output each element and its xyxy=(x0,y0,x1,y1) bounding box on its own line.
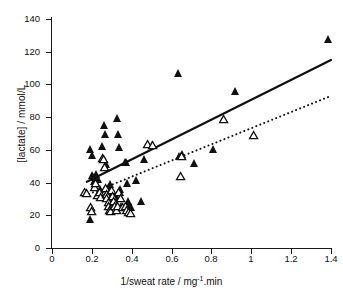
y-tick xyxy=(46,84,51,85)
data-point-open xyxy=(99,155,108,163)
data-point-filled xyxy=(123,179,131,187)
y-tick-label: 0 xyxy=(6,243,40,253)
data-point-filled xyxy=(114,130,122,138)
x-tick-label: 1 xyxy=(236,254,266,264)
data-point-open xyxy=(148,141,157,149)
y-tick-label: 140 xyxy=(6,14,40,24)
y-tick-label: 20 xyxy=(6,210,40,220)
y-tick xyxy=(46,183,51,184)
data-point-filled xyxy=(140,155,148,163)
data-point-filled xyxy=(98,142,106,150)
x-tick-label: 0 xyxy=(37,254,67,264)
x-axis-title-post: .min xyxy=(204,276,223,287)
x-axis-line xyxy=(51,248,332,249)
data-point-filled xyxy=(86,215,94,223)
data-point-filled xyxy=(231,87,239,95)
data-point-open xyxy=(219,115,228,123)
y-tick xyxy=(46,150,51,151)
y-tick xyxy=(46,117,51,118)
data-point-open xyxy=(177,152,186,160)
data-point-filled xyxy=(324,35,332,43)
x-tick-label: 0.8 xyxy=(196,254,226,264)
data-point-filled xyxy=(100,121,108,129)
data-point-filled xyxy=(113,114,121,122)
chart-figure: 020406080100120140 00.20.40.60.811.21.4 … xyxy=(0,0,343,298)
data-point-open xyxy=(100,163,109,171)
y-axis-title: [lactate] / mmol/L xyxy=(16,49,27,199)
data-point-filled xyxy=(122,158,130,166)
y-tick xyxy=(46,19,51,20)
data-point-open xyxy=(176,172,185,180)
data-point-open xyxy=(126,209,135,217)
data-point-filled xyxy=(209,145,217,153)
data-point-open xyxy=(249,131,258,139)
data-point-filled xyxy=(115,143,123,151)
y-tick xyxy=(46,248,51,249)
x-tick-label: 0.4 xyxy=(117,254,147,264)
x-tick-label: 1.4 xyxy=(316,254,343,264)
data-point-filled xyxy=(132,176,140,184)
x-tick-label: 0.6 xyxy=(157,254,187,264)
x-tick-label: 0.2 xyxy=(77,254,107,264)
data-point-open xyxy=(91,179,100,187)
y-tick xyxy=(46,215,51,216)
x-axis-title: 1/sweat rate / mg-1.min xyxy=(0,275,343,287)
y-tick xyxy=(46,52,51,53)
data-point-filled xyxy=(101,130,109,138)
data-point-filled xyxy=(88,151,96,159)
x-tick-label: 1.2 xyxy=(276,254,306,264)
x-axis-title-pre: 1/sweat rate / mg xyxy=(121,276,198,287)
plot-area xyxy=(52,19,331,248)
data-point-filled xyxy=(137,197,145,205)
data-point-open xyxy=(87,207,96,215)
data-point-filled xyxy=(174,69,182,77)
data-point-filled xyxy=(190,159,198,167)
